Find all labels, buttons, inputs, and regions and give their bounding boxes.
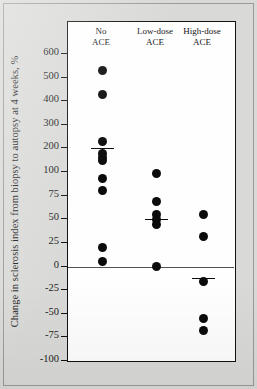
data-point [199,314,208,323]
y-axis-tick-label: 500 [25,70,59,81]
y-axis-tick-label: 50 [25,211,59,222]
median-marker [91,148,114,149]
y-axis-tick-label: -75 [25,329,59,340]
y-axis-tick-label: 75 [25,188,59,199]
data-point [199,210,208,219]
y-axis-tick-label: 300 [25,117,59,128]
data-point [98,66,107,75]
y-axis-tick-label: -100 [25,353,59,364]
data-point [98,243,107,252]
median-marker [192,278,215,279]
plot-area [67,21,236,362]
data-point [98,156,107,165]
data-point [199,232,208,241]
data-point [98,137,107,146]
y-axis-tick-label: 200 [25,140,59,151]
data-point [98,90,107,99]
data-point [152,169,161,178]
data-point [199,326,208,335]
y-axis-tick-label: 600 [25,46,59,57]
data-point [98,186,107,195]
y-axis-tick-label: 400 [25,93,59,104]
column-header-line2: ACE [167,37,237,48]
data-point [152,220,161,229]
median-marker [145,219,168,220]
column-header-high-dose-ace: High-doseACE [167,26,237,47]
y-axis-tick-label: 100 [25,164,59,175]
data-point [98,174,107,183]
data-point [152,262,161,271]
zero-reference-line [68,267,234,268]
y-axis-tick-label: 0 [25,259,59,270]
data-point [98,257,107,266]
column-header-line1: High-dose [167,26,237,37]
data-point [152,197,161,206]
y-axis-tick-label: 25 [25,235,59,246]
y-axis-tick-label: -25 [25,282,59,293]
figure-panel: Change in sclerosis index from biopsy to… [0,0,257,389]
y-axis-label-text: Change in sclerosis index from biopsy to… [10,56,21,327]
y-axis-tick-label: -50 [25,306,59,317]
y-axis-label: Change in sclerosis index from biopsy to… [4,21,26,362]
